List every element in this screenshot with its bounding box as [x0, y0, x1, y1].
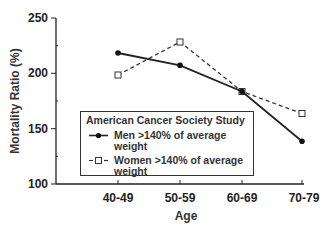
- y-axis: 250 200 150 100 Mortality Ratio (%): [8, 11, 58, 191]
- x-tick-label: 40-49: [103, 191, 134, 205]
- dashed-square-line-icon: [86, 155, 114, 166]
- x-tick-label: 70-79: [289, 191, 320, 205]
- legend-item-women: Women >140% of average weight: [86, 155, 248, 177]
- x-axis: 40-49 50-59 60-69 70-79 Age: [56, 180, 320, 223]
- square-marker: [177, 39, 183, 45]
- circle-marker: [239, 89, 245, 95]
- x-tick-label: 60-69: [227, 191, 258, 205]
- square-marker: [299, 111, 305, 117]
- circle-marker: [115, 50, 121, 56]
- solid-circle-line-icon: [86, 130, 114, 141]
- y-tick-label: 150: [28, 122, 48, 136]
- y-tick-label: 250: [28, 11, 48, 25]
- legend-label-women: Women >140% of average weight: [114, 155, 248, 177]
- legend-label-men: Men >140% of average weight: [114, 130, 248, 152]
- legend: American Cancer Society Study Men >140% …: [80, 111, 254, 176]
- circle-marker: [177, 63, 183, 69]
- legend-item-men: Men >140% of average weight: [86, 130, 248, 152]
- circle-marker: [299, 139, 305, 145]
- y-tick-label: 100: [28, 177, 48, 191]
- y-tick-label: 200: [28, 66, 48, 80]
- x-tick-label: 50-59: [165, 191, 196, 205]
- y-axis-title: Mortality Ratio (%): [8, 48, 22, 153]
- legend-title: American Cancer Society Study: [86, 115, 248, 126]
- x-axis-title: Age: [175, 209, 198, 223]
- square-marker: [115, 72, 121, 78]
